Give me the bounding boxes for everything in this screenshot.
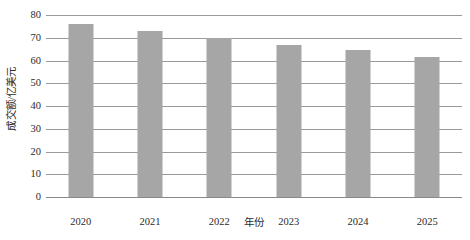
y-tick-label: 60 <box>31 55 42 66</box>
bar-slot <box>46 15 115 197</box>
plot-area: 01020304050607080 2020202120222023202420… <box>46 15 462 197</box>
y-tick-label: 20 <box>31 146 42 157</box>
bar-slot <box>115 15 184 197</box>
bar <box>207 38 232 197</box>
bar <box>276 45 301 197</box>
y-axis-title-text: 成交额/亿美元 <box>3 66 18 130</box>
bar-slot <box>393 15 462 197</box>
y-tick-label: 30 <box>31 124 42 135</box>
y-tick-label: 10 <box>31 169 42 180</box>
bar-slot <box>185 15 254 197</box>
x-axis-title: 年份 <box>46 218 462 229</box>
bar-series <box>46 15 462 197</box>
bar <box>345 50 370 197</box>
bar <box>137 31 162 197</box>
y-axis-title: 成交额/亿美元 <box>1 0 19 196</box>
y-tick-label: 0 <box>36 192 41 203</box>
bar-slot <box>323 15 392 197</box>
bar-slot <box>254 15 323 197</box>
y-tick-label: 70 <box>31 33 42 44</box>
y-tick-label: 50 <box>31 78 42 89</box>
y-tick-label: 80 <box>31 10 42 21</box>
y-tick-label: 40 <box>31 101 42 112</box>
bar <box>68 24 93 197</box>
x-axis-line <box>46 197 462 198</box>
bar <box>415 57 440 197</box>
bar-chart: 成交额/亿美元 01020304050607080 20202021202220… <box>0 0 470 240</box>
